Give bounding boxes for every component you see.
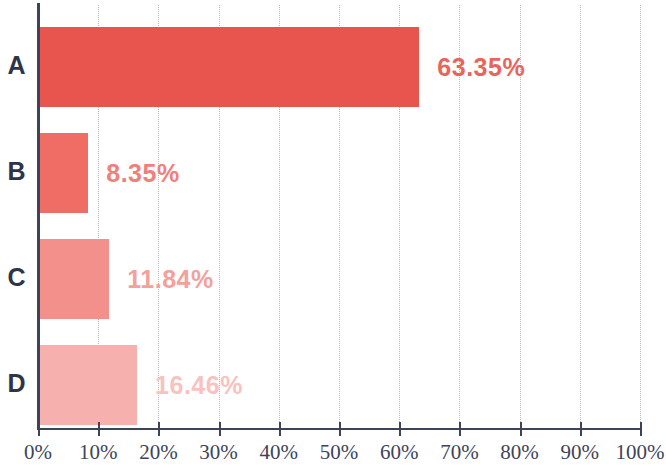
category-label-d: D [0, 369, 33, 398]
y-axis-line [37, 3, 40, 429]
category-label-c: C [0, 263, 33, 292]
x-axis-tick-label: 0% [24, 440, 52, 465]
x-axis-tick-mark [459, 422, 461, 436]
plot-area: 63.35%8.35%11.84%16.46% [38, 5, 640, 428]
x-axis-tick-mark [158, 422, 160, 436]
category-label-a: A [0, 51, 33, 80]
bar-a[interactable] [38, 27, 419, 107]
x-axis-tick-label: 80% [500, 440, 539, 465]
bar-row: 8.35% [38, 133, 640, 213]
x-axis-tick-mark [399, 422, 401, 436]
bar-chart: 63.35%8.35%11.84%16.46% 0%10%20%30%40%50… [0, 0, 666, 470]
bar-value-label-d: 16.46% [155, 371, 243, 400]
x-axis-tick-mark [339, 422, 341, 436]
bar-c[interactable] [38, 239, 109, 319]
x-axis-tick-mark [38, 422, 40, 436]
bar-b[interactable] [38, 133, 88, 213]
x-axis-tick-mark [520, 422, 522, 436]
x-axis-tick-mark [640, 422, 642, 436]
x-axis-tick-mark [279, 422, 281, 436]
x-axis-tick-label: 90% [561, 440, 600, 465]
x-axis-tick-label: 10% [79, 440, 118, 465]
x-axis-tick-label: 70% [440, 440, 479, 465]
bar-value-label-c: 11.84% [127, 265, 213, 294]
x-axis-tick-mark [219, 422, 221, 436]
bar-row: 11.84% [38, 239, 640, 319]
x-axis-tick-label: 40% [260, 440, 299, 465]
x-axis-tick-label: 60% [380, 440, 419, 465]
gridline [640, 5, 641, 428]
x-axis-tick-mark [98, 422, 100, 436]
x-axis-tick-label: 50% [320, 440, 359, 465]
bar-row: 16.46% [38, 345, 640, 425]
x-axis-tick-label: 20% [139, 440, 178, 465]
bar-value-label-a: 63.35% [437, 53, 525, 82]
bar-row: 63.35% [38, 27, 640, 107]
x-axis-tick-mark [580, 422, 582, 436]
bar-value-label-b: 8.35% [106, 159, 179, 188]
x-axis-tick-label: 100% [616, 440, 665, 465]
x-axis-tick-label: 30% [199, 440, 238, 465]
category-label-b: B [0, 157, 33, 186]
bar-d[interactable] [38, 345, 137, 425]
